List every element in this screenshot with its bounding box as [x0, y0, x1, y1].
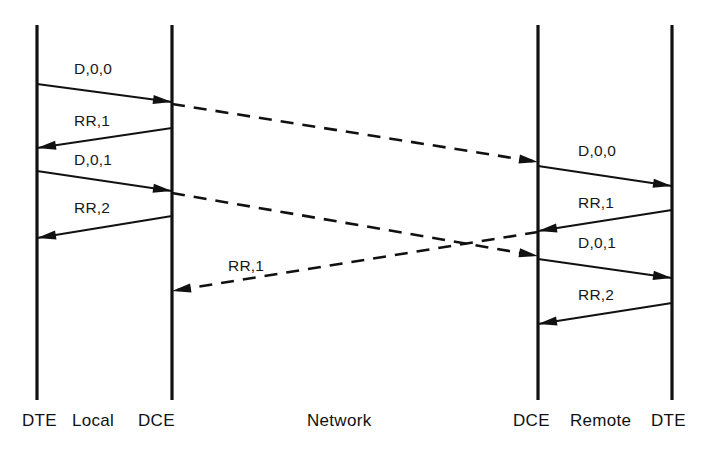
- label-dte-right: DTE: [651, 412, 686, 429]
- lifelines-group: [37, 25, 672, 400]
- message-label-m4: RR,2: [74, 200, 110, 216]
- message-label-m8: D,0,0: [578, 143, 616, 159]
- label-remote: Remote: [570, 412, 631, 429]
- arrowhead-m5: [519, 154, 538, 163]
- arrowhead-m7: [172, 283, 191, 292]
- message-label-m7: RR,1: [228, 258, 264, 274]
- sequence-diagram: D,0,0RR,1D,0,1RR,2RR,1D,0,0RR,1D,0,1RR,2…: [0, 0, 725, 459]
- message-shaft-m10: [538, 259, 672, 278]
- message-label-m11: RR,2: [578, 287, 614, 303]
- message-label-m10: D,0,1: [578, 235, 616, 251]
- arrowhead-m4: [37, 230, 56, 239]
- message-shaft-m8: [538, 166, 672, 186]
- label-dce-right: DCE: [513, 412, 550, 429]
- message-label-m3: D,0,1: [74, 152, 112, 168]
- message-label-m9: RR,1: [578, 195, 614, 211]
- label-dte-left: DTE: [22, 412, 57, 429]
- arrowhead-m9: [538, 224, 557, 233]
- messages-group: [37, 84, 672, 326]
- message-shaft-m5: [172, 104, 538, 162]
- arrowhead-m1: [153, 95, 172, 104]
- label-dce-left: DCE: [138, 412, 175, 429]
- label-network: Network: [307, 412, 371, 429]
- message-label-m1: D,0,0: [74, 61, 112, 77]
- message-shaft-m6: [172, 193, 538, 256]
- label-local: Local: [72, 412, 114, 429]
- arrowhead-m6: [518, 248, 538, 257]
- message-shaft-m1: [37, 84, 172, 102]
- message-shaft-m9: [538, 210, 672, 231]
- message-shaft-m7: [172, 232, 538, 291]
- message-shaft-m3: [37, 171, 172, 191]
- message-shaft-m11: [538, 303, 672, 324]
- arrowhead-m11: [538, 317, 557, 326]
- message-shaft-m2: [37, 128, 172, 148]
- message-shaft-m4: [37, 216, 172, 238]
- message-label-m2: RR,1: [74, 113, 110, 129]
